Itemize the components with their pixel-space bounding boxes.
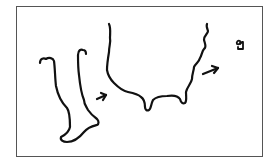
arrow-icon-2 — [203, 66, 218, 74]
wavy-outline — [107, 24, 208, 110]
symbol-mark-icon — [237, 41, 243, 49]
leg-foot-outline — [40, 50, 99, 142]
arrow-icon-1 — [97, 93, 106, 100]
sketch-canvas — [0, 0, 278, 165]
